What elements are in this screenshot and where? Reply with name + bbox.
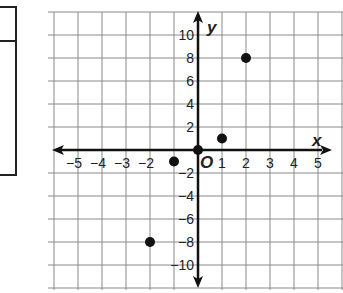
y-tick-label: −4 bbox=[178, 188, 194, 204]
x-axis-label: x bbox=[311, 131, 323, 150]
data-point bbox=[241, 53, 251, 63]
x-tick-label: 2 bbox=[242, 155, 250, 171]
y-tick-label: 6 bbox=[186, 73, 194, 89]
x-tick-label: 5 bbox=[314, 155, 322, 171]
x-tick-label: −5 bbox=[66, 155, 82, 171]
y-tick-label: 10 bbox=[178, 27, 194, 43]
coordinate-plane-figure: −5−4−3−212345108642−2−4−6−8−10 x y O bbox=[0, 0, 343, 293]
x-tick-label: −4 bbox=[90, 155, 106, 171]
x-tick-label: 3 bbox=[266, 155, 274, 171]
y-tick-label: 2 bbox=[186, 119, 194, 135]
y-tick-label: 4 bbox=[186, 96, 194, 112]
x-tick-label: −3 bbox=[114, 155, 130, 171]
data-point bbox=[217, 134, 227, 144]
x-tick-label: 1 bbox=[218, 155, 226, 171]
y-tick-label: −8 bbox=[178, 234, 194, 250]
origin-label: O bbox=[200, 153, 213, 172]
data-point bbox=[145, 237, 155, 247]
data-point bbox=[169, 157, 179, 167]
y-tick-label: −10 bbox=[170, 257, 194, 273]
coordinate-plane: −5−4−3−212345108642−2−4−6−8−10 x y O bbox=[0, 0, 343, 293]
x-tick-label: 4 bbox=[290, 155, 298, 171]
x-tick-label: −2 bbox=[138, 155, 154, 171]
y-axis-label: y bbox=[206, 18, 218, 37]
y-tick-label: 8 bbox=[186, 50, 194, 66]
y-tick-label: −2 bbox=[178, 165, 194, 181]
table-box bbox=[0, 7, 16, 175]
y-tick-label: −6 bbox=[178, 211, 194, 227]
